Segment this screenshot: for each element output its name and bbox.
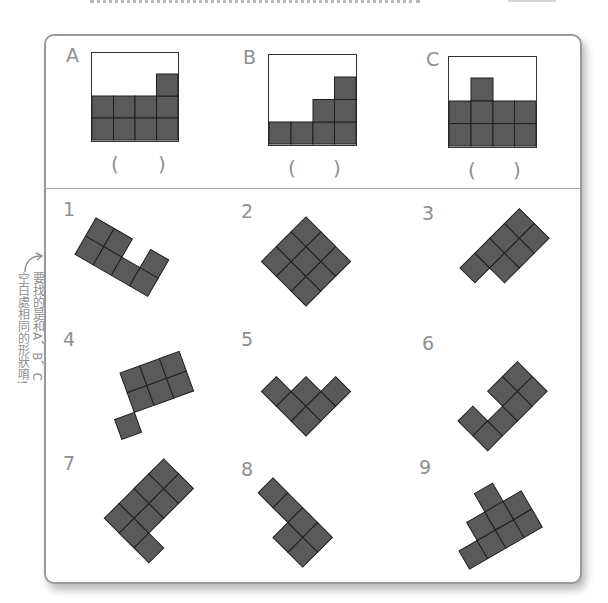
answer-open-a: ( [111,152,119,176]
answer-close-a[interactable]: ) [158,152,166,176]
page-tab [508,0,556,2]
option-6-shape[interactable] [446,341,586,451]
target-label-b: B [243,46,256,68]
top-dotted-rule [90,0,420,7]
option-2-shape[interactable] [246,216,386,316]
option-label-7: 7 [63,452,75,474]
option-7-shape[interactable] [76,456,216,586]
option-9-shape[interactable] [451,461,591,591]
target-a-shape [92,74,178,140]
option-label-4: 4 [63,328,75,350]
hint-line-2: 空白處相同的形狀唷! [15,272,28,385]
option-3-shape[interactable] [446,216,586,316]
option-label-6: 6 [422,332,434,354]
option-label-3: 3 [422,202,434,224]
target-label-a: A [66,44,79,66]
target-c-shape [449,78,536,146]
section-divider [46,188,580,189]
option-label-9: 9 [419,456,431,478]
option-label-5: 5 [241,328,253,350]
answer-open-c: ( [468,158,476,182]
answer-close-c[interactable]: ) [513,158,521,182]
option-1-shape[interactable] [66,208,206,308]
target-label-c: C [426,48,439,70]
option-8-shape[interactable] [261,466,391,596]
hint-line-1: 要找的是和A、B、C [30,272,43,381]
puzzle-frame: A ( ) B ( ) C ( ) 1 [44,34,582,584]
answer-close-b[interactable]: ) [333,156,341,180]
answer-open-b: ( [288,156,296,180]
option-5-shape[interactable] [246,356,386,456]
target-b-shape [269,77,356,144]
option-label-8: 8 [241,458,253,480]
option-4-shape[interactable] [96,341,236,441]
